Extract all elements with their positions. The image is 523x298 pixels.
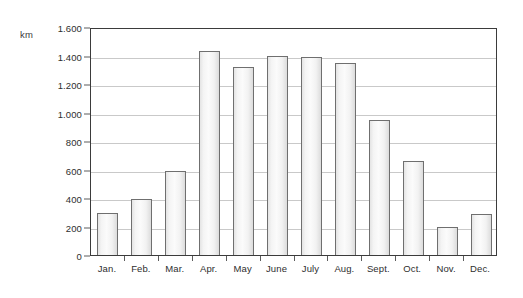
y-axis-tick-label: 0 bbox=[77, 251, 82, 262]
gridline bbox=[91, 58, 496, 59]
x-axis-tick-label: Dec. bbox=[470, 263, 490, 274]
x-axis-tick-label: Mar. bbox=[165, 263, 184, 274]
y-axis-tick-mark bbox=[84, 28, 90, 29]
gridline bbox=[91, 86, 496, 87]
y-axis-tick-label: 1.600 bbox=[58, 23, 82, 34]
plot-area bbox=[90, 28, 497, 256]
y-axis-tick-mark bbox=[84, 85, 90, 86]
x-axis-tick-mark bbox=[463, 256, 464, 261]
x-axis-tick-label: Apr. bbox=[200, 263, 217, 274]
x-axis-tick-label: Oct. bbox=[403, 263, 421, 274]
x-axis-tick-label: Sept. bbox=[367, 263, 390, 274]
bar bbox=[369, 120, 390, 255]
y-axis-tick-mark bbox=[84, 142, 90, 143]
x-axis-tick-mark bbox=[327, 256, 328, 261]
x-axis-tick-label: July bbox=[302, 263, 319, 274]
bar bbox=[199, 51, 220, 255]
bar bbox=[131, 199, 152, 255]
bar bbox=[97, 213, 118, 255]
gridline bbox=[91, 143, 496, 144]
x-axis-tick-label: Feb. bbox=[131, 263, 150, 274]
x-axis-tick-mark bbox=[395, 256, 396, 261]
x-axis-tick-label: May bbox=[234, 263, 252, 274]
x-axis-tick-label: Jan. bbox=[98, 263, 116, 274]
x-axis-tick-mark bbox=[192, 256, 193, 261]
bar bbox=[233, 67, 254, 255]
y-axis-tick-label: 200 bbox=[66, 222, 82, 233]
x-axis-tick-label: June bbox=[266, 263, 287, 274]
bar bbox=[403, 161, 424, 255]
x-axis-tick-mark bbox=[361, 256, 362, 261]
x-axis-tick-mark bbox=[260, 256, 261, 261]
y-axis-tick-label: 1.400 bbox=[58, 51, 82, 62]
y-axis-tick-label: 400 bbox=[66, 194, 82, 205]
y-axis-tick-label: 1.200 bbox=[58, 80, 82, 91]
bar-chart: km 02004006008001.0001.2001.4001.600 Jan… bbox=[0, 0, 523, 298]
y-axis-tick-labels: 02004006008001.0001.2001.4001.600 bbox=[44, 0, 82, 298]
y-axis-tick-mark bbox=[84, 113, 90, 114]
x-axis-tick-mark bbox=[124, 256, 125, 261]
y-axis-tick-mark bbox=[84, 199, 90, 200]
x-axis-tick-mark bbox=[294, 256, 295, 261]
y-axis-tick-label: 800 bbox=[66, 137, 82, 148]
gridline bbox=[91, 172, 496, 173]
bar bbox=[335, 63, 356, 255]
bar bbox=[267, 56, 288, 256]
x-axis-tick-label: Nov. bbox=[437, 263, 456, 274]
x-axis-tick-mark bbox=[429, 256, 430, 261]
bar bbox=[471, 214, 492, 255]
y-axis-tick-mark bbox=[84, 227, 90, 228]
bar bbox=[301, 57, 322, 255]
y-axis-tick-label: 600 bbox=[66, 165, 82, 176]
y-axis-tick-mark bbox=[84, 170, 90, 171]
y-axis-unit-label: km bbox=[20, 29, 33, 40]
y-axis-tick-label: 1.000 bbox=[58, 108, 82, 119]
y-axis-tick-mark bbox=[84, 256, 90, 257]
x-axis-tick-mark bbox=[226, 256, 227, 261]
x-axis-tick-mark bbox=[158, 256, 159, 261]
y-axis-tick-mark bbox=[84, 56, 90, 57]
x-axis-tick-label: Aug. bbox=[334, 263, 354, 274]
bar bbox=[437, 227, 458, 255]
bar bbox=[165, 171, 186, 255]
gridline bbox=[91, 115, 496, 116]
